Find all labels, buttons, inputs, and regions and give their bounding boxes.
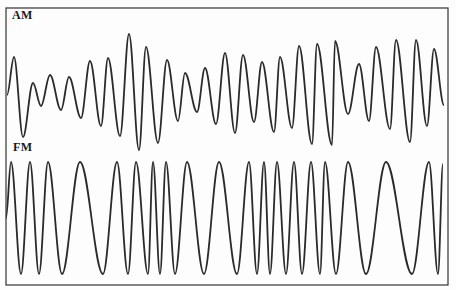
am-label: AM <box>12 8 33 23</box>
am-fm-diagram: AM FM <box>0 0 456 290</box>
am-waveform <box>7 34 444 150</box>
fm-label: FM <box>13 140 32 155</box>
figure-frame <box>6 8 448 285</box>
waveform-plot <box>0 0 456 290</box>
fm-waveform <box>6 162 443 274</box>
